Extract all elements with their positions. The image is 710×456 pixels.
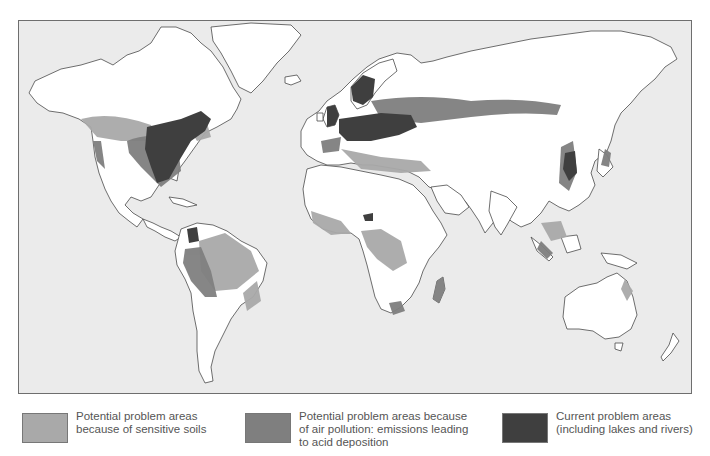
tasmania: [615, 343, 623, 351]
iceland: [285, 75, 301, 85]
legend: Potential problem areas because of sensi…: [0, 410, 710, 456]
swatch-air-pollution: [245, 413, 291, 443]
land-masses: [29, 23, 679, 383]
legend-label: Potential problem areas because of sensi…: [76, 410, 206, 436]
world-map: [18, 20, 692, 394]
new-zealand: [661, 333, 679, 361]
legend-label: Current problem areas (including lakes a…: [556, 410, 693, 436]
legend-label: Potential problem areas because of air p…: [299, 410, 468, 449]
swatch-sensitive-soils: [22, 413, 68, 443]
central-america: [143, 219, 181, 241]
legend-item-current-problem: Current problem areas (including lakes a…: [502, 410, 693, 443]
legend-item-air-pollution: Potential problem areas because of air p…: [245, 410, 468, 449]
legend-item-sensitive-soils: Potential problem areas because of sensi…: [22, 410, 206, 443]
ireland: [317, 113, 323, 121]
map-svg: [19, 21, 692, 394]
new-guinea: [601, 253, 637, 269]
swatch-current-problem: [502, 413, 548, 443]
cuba: [169, 197, 197, 207]
